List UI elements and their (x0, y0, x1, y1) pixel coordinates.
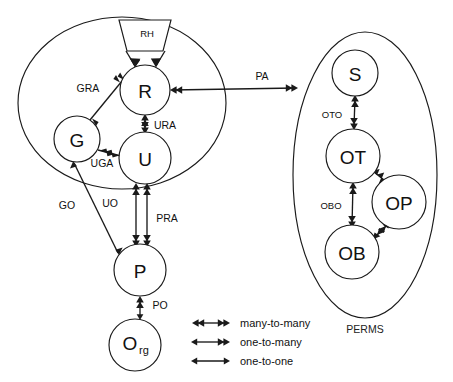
edge-label-ura: URA (154, 119, 176, 131)
perms-group-label: PERMS (346, 323, 383, 335)
node-OB[interactable]: OB (325, 225, 379, 279)
legend: many-to-many one-to-many one-to-one (191, 317, 311, 367)
node-Org[interactable]: O rg (109, 319, 161, 371)
edge-pa (170, 84, 298, 94)
edge-label-uga: UGA (91, 157, 114, 169)
node-S-label: S (349, 64, 362, 85)
node-OT-label: OT (340, 147, 367, 168)
edge-pra (143, 183, 151, 247)
legend-label-many-to-many: many-to-many (240, 317, 311, 329)
node-G-label: G (70, 130, 85, 151)
legend-label-one-to-one: one-to-one (240, 355, 293, 367)
node-Org-label: O (123, 333, 138, 354)
edge-rh-left (126, 51, 140, 68)
legend-item-many-to-many: many-to-many (192, 317, 311, 329)
legend-item-one-to-one: one-to-one (191, 355, 293, 367)
edge-label-oto: OTO (322, 109, 342, 120)
node-G[interactable]: G (54, 116, 100, 162)
node-P-label: P (134, 261, 147, 282)
edge-uo (132, 183, 140, 247)
node-S[interactable]: S (332, 50, 378, 96)
node-Org-sublabel: rg (139, 344, 149, 356)
edge-ura (141, 114, 149, 134)
legend-label-one-to-many: one-to-many (240, 336, 302, 348)
edge-label-go: GO (59, 199, 75, 211)
node-U-label: U (138, 149, 152, 170)
node-R-label: R (138, 81, 152, 102)
diagram-canvas: RH R G U P O rg S (0, 0, 453, 382)
edge-label-pra: PRA (156, 212, 178, 224)
node-R[interactable]: R (120, 65, 170, 115)
edge-obo (348, 182, 357, 228)
node-U[interactable]: U (119, 132, 171, 184)
node-P[interactable]: P (114, 244, 166, 296)
node-RH[interactable]: RH (119, 20, 171, 51)
edge-oto (350, 95, 359, 130)
edge-po (136, 296, 144, 320)
edge-label-obo: OBO (320, 200, 341, 211)
edge-label-gra: GRA (77, 82, 100, 94)
edge-rh-right (151, 51, 165, 68)
node-OB-label: OB (338, 243, 365, 264)
node-OP-label: OP (385, 193, 412, 214)
edge-label-po: PO (152, 299, 167, 311)
node-OP[interactable]: OP (372, 175, 426, 229)
legend-item-one-to-many: one-to-many (191, 336, 302, 348)
node-OT[interactable]: OT (326, 129, 380, 183)
edge-label-pa: PA (255, 70, 268, 82)
node-RH-label: RH (140, 28, 154, 39)
edge-gra (88, 72, 124, 129)
rbac-diagram: RH R G U P O rg S (0, 0, 453, 382)
edge-label-uo: UO (102, 197, 118, 209)
